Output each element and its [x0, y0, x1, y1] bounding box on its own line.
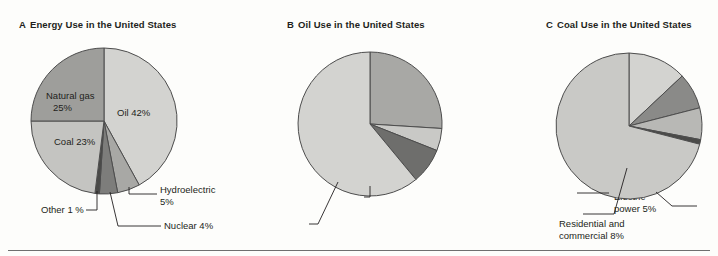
figure-pie-chart-panels: AEnergy Use in the United States Oil 42%… — [0, 0, 718, 256]
panel-coal-use: CCoal Use in the United States Electric … — [480, 0, 718, 256]
pie-chart-oil-use — [248, 0, 480, 256]
label-oil: Oil 42% — [117, 107, 150, 119]
callout-other: Other 1 % — [41, 204, 84, 216]
leader-line-industry — [656, 192, 697, 206]
callout-hydroelectric: Hydroelectric 5% — [160, 184, 215, 207]
pie-chart-coal-use — [480, 0, 718, 256]
callout-lines-energy — [86, 187, 161, 226]
leader-line-nuclear — [110, 192, 161, 226]
slice-coal[interactable] — [31, 121, 104, 193]
footer-divider — [8, 250, 710, 251]
panel-energy-use: AEnergy Use in the United States Oil 42%… — [0, 0, 248, 256]
slice-industry[interactable] — [370, 52, 442, 129]
panel-oil-use: BOil Use in the United States Transporta… — [248, 0, 480, 256]
label-natural-gas: Natural gas — [46, 90, 95, 102]
callout-hydroelectric-line1: Hydroelectric — [160, 184, 215, 196]
callout-nuclear: Nuclear 4% — [164, 220, 213, 232]
label-natural-gas-value: 25% — [53, 102, 72, 114]
label-coal: Coal 23% — [54, 136, 95, 148]
callout-hydroelectric-line2: 5% — [160, 196, 215, 208]
pie-slices-energy — [31, 48, 177, 194]
leader-line-residential-commercial — [309, 182, 338, 224]
pie-slices-oil — [298, 52, 442, 196]
pie-chart-energy-use — [0, 0, 248, 256]
pie-slices-coal — [556, 53, 702, 199]
